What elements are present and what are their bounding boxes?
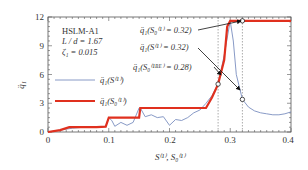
x-tick-0.3: 0.3	[224, 135, 236, 145]
x-axis-label: S⁽¹⁾, S₀⁽¹⁾	[155, 152, 186, 162]
annotation-s0be-028: q̈₁(S₀⁽¹ᴮᴱ⁾ = 0.28)	[133, 62, 192, 72]
arrow-ann1	[198, 21, 241, 30]
legend-label-s1: q̈₁(S⁽¹⁾)	[100, 75, 124, 85]
info-damping: ζ₁ = 0.015	[62, 47, 98, 57]
marker-s0be-028	[216, 82, 220, 86]
reference-lines	[218, 17, 242, 132]
marker-s1-032	[240, 97, 244, 101]
x-tick-0.2: 0.2	[164, 135, 175, 145]
arrow-ann3	[214, 67, 221, 75]
x-tick-0.1: 0.1	[103, 135, 114, 145]
chart: 12 9 6 3 0 0 0.1 0.2 0.3 0.4 S⁽¹⁾, S₀⁽¹⁾…	[0, 0, 308, 170]
y-tick-3: 3	[40, 98, 45, 108]
y-tick-12: 12	[35, 12, 44, 22]
y-tick-0: 0	[40, 127, 45, 137]
annotation-s1-032: q̈₁(S⁽¹⁾ = 0.32)	[140, 42, 189, 52]
x-tick-0.4: 0.4	[282, 135, 294, 145]
annotation-s0-032: q̈₁(S₀⁽¹⁾ = 0.32)	[140, 25, 192, 35]
info-model: HSLM-A1	[62, 26, 99, 36]
y-tick-6: 6	[40, 70, 45, 80]
y-axis-label: q̈₁	[16, 81, 26, 89]
legend-label-s0: q̈₁(S₀⁽¹⁾)	[100, 96, 127, 106]
x-tick-0: 0	[46, 135, 51, 145]
y-tick-9: 9	[40, 41, 45, 51]
info-ratio: L / d = 1.67	[61, 36, 103, 46]
